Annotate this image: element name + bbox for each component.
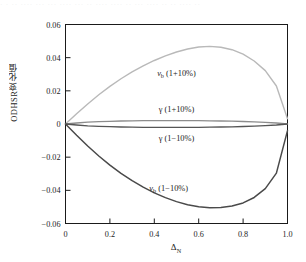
x-tick-label: 0.4 (149, 230, 159, 239)
y-tick-label: 0.04 (46, 54, 60, 63)
x-tick-label: 0.6 (194, 230, 204, 239)
annotation-v-b-1-10: vb (1+10%) (157, 69, 196, 79)
figure-container: · · ·· ···· ··· ··· ···· ··· ·· ···· ···… (0, 0, 306, 262)
y-tick-label: −0.06 (42, 220, 61, 229)
chart-plot: 0.060.040.020−0.02−0.04−0.06 00.20.40.60… (0, 0, 306, 262)
annotation-1-10: γ (1−10%) (158, 134, 195, 143)
y-tick-label: −0.04 (42, 186, 61, 195)
annotation-v-b-1-10: vb (1−10%) (149, 184, 188, 194)
annotation-1-10: γ (1+10%) (158, 105, 195, 114)
y-tick-label: 0 (56, 120, 60, 129)
y-tick-label: 0.02 (46, 87, 60, 96)
x-tick-label: 1.0 (282, 230, 292, 239)
y-tick-label: 0.06 (46, 21, 60, 30)
x-axis-title: ΔN (171, 242, 182, 254)
x-tick-label: 0 (63, 230, 67, 239)
curve-1-10 (66, 121, 288, 124)
y-tick-label: −0.02 (42, 153, 61, 162)
curve-1-10 (66, 124, 288, 127)
x-axis-title-group: ΔN (171, 242, 182, 254)
x-tick-label: 0.8 (238, 230, 248, 239)
curve-annotations: vb (1+10%)γ (1+10%)γ (1−10%)vb (1−10%) (149, 69, 196, 193)
plot-frame (66, 25, 288, 224)
x-axis-ticks: 00.20.40.60.81.0 (63, 219, 292, 239)
x-tick-label: 0.2 (105, 230, 115, 239)
